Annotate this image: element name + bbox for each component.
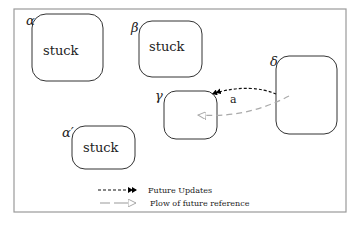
node-gamma-label: γ [155,88,163,103]
node-alpha-label: α [26,13,35,28]
node-alpha-text: stuck [43,43,79,58]
diagram-canvas: α stuck β stuck γ δ α′ stuck a Future Up… [0,0,359,225]
node-alpha: α stuck [26,13,103,81]
node-beta: β stuck [130,20,202,77]
legend-future-updates-label: Future Updates [148,186,212,195]
node-beta-label: β [130,20,139,35]
edge-future-updates-label: a [230,93,237,106]
legend-future-reference-label: Flow of future reference [150,199,250,208]
edge-future-updates [212,88,276,94]
legend: Future Updates Flow of future reference [98,186,250,208]
node-beta-text: stuck [149,39,185,54]
node-alpha-prime-text: stuck [83,140,119,155]
node-gamma: γ [155,88,217,139]
node-alpha-prime: α′ stuck [62,125,135,169]
node-delta: δ [270,54,337,134]
node-alpha-prime-label: α′ [62,125,74,140]
node-delta-label: δ [270,54,278,69]
